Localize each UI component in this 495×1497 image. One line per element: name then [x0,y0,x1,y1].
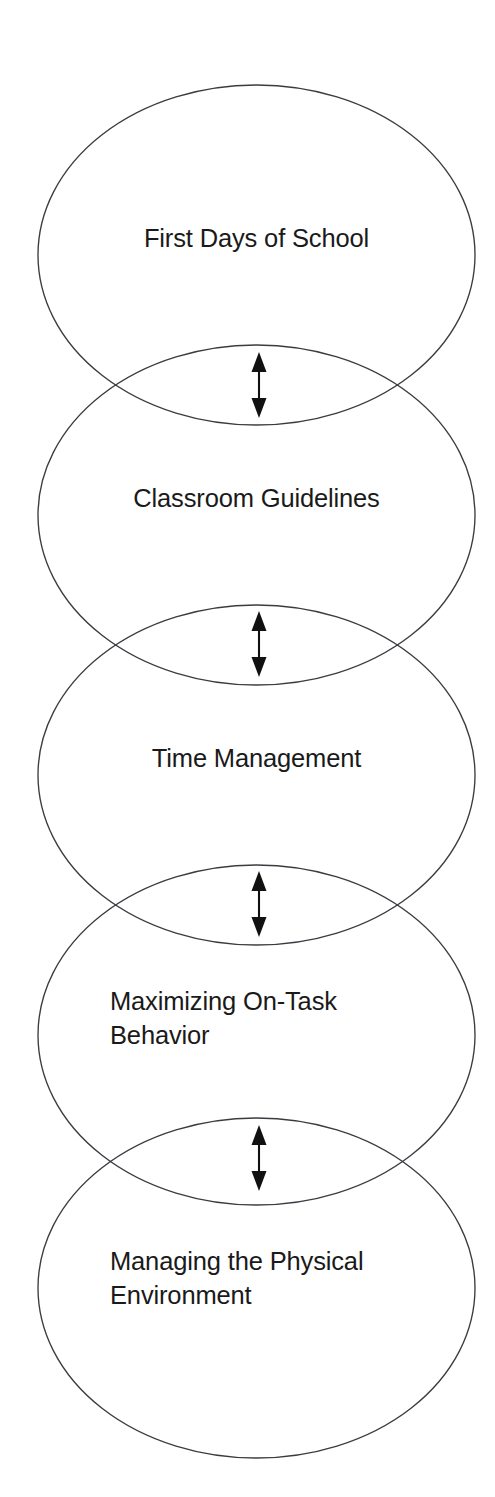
connector-2-double-arrow-icon[interactable] [252,611,267,677]
connector-1-double-arrow-icon[interactable] [252,352,267,418]
connector-group [252,352,267,1191]
connector-3-double-arrow-icon[interactable] [252,871,267,937]
ellipse-managing-the-physical-environment[interactable] [38,1118,475,1458]
diagram-canvas [0,0,495,1497]
connector-4-double-arrow-icon[interactable] [252,1125,267,1191]
ellipse-first-days-of-school[interactable] [38,85,475,425]
ellipse-time-management[interactable] [38,605,475,945]
ellipse-group [38,85,475,1458]
venn-chain-diagram: First Days of School Classroom Guideline… [0,0,495,1497]
ellipse-maximizing-on-task-behavior[interactable] [38,865,475,1205]
ellipse-classroom-guidelines[interactable] [38,345,475,685]
